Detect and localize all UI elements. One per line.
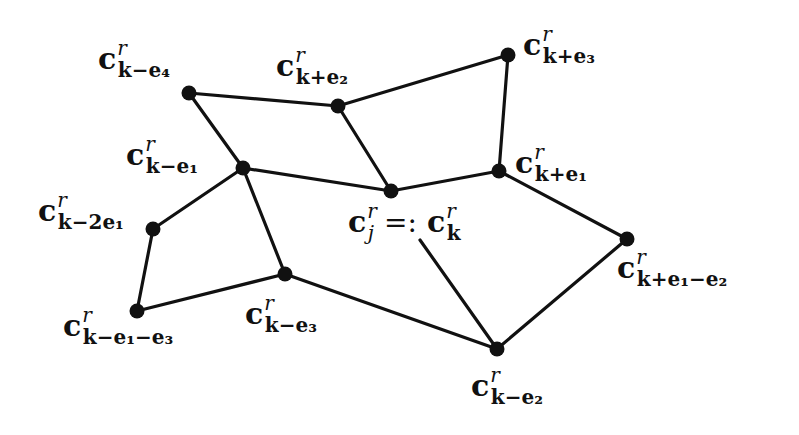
label-base: c bbox=[523, 27, 541, 62]
node-k_plus_e3 bbox=[501, 48, 516, 63]
label-base: c bbox=[276, 48, 294, 83]
edge-k_minus_2e1-k_minus_e1_minus_e3 bbox=[137, 229, 153, 311]
label-base: c bbox=[617, 250, 635, 285]
edge-k_minus_e4-k_plus_e2 bbox=[189, 93, 338, 106]
label-base: c bbox=[38, 193, 56, 228]
node-k_minus_e3 bbox=[278, 267, 293, 282]
edge-k_minus_e1-k bbox=[243, 168, 391, 191]
node-k_minus_e4 bbox=[182, 86, 197, 101]
label-subscript: k−e₄ bbox=[118, 58, 170, 82]
label-subscript: k+e₁ bbox=[535, 162, 587, 186]
label-k_minus_e3: crk−e₃ bbox=[245, 299, 317, 329]
edge-k_plus_e2-k_plus_e3 bbox=[338, 55, 508, 106]
label-base: c bbox=[126, 137, 144, 172]
node-k_minus_e2 bbox=[490, 342, 505, 357]
edge-k_plus_e2-k bbox=[338, 106, 391, 191]
label-base: c bbox=[63, 308, 81, 343]
node-k_minus_2e1 bbox=[146, 222, 161, 237]
label-subscript: k+e₁−e₂ bbox=[637, 267, 727, 291]
node-k_plus_e2 bbox=[331, 99, 346, 114]
node-k bbox=[384, 184, 399, 199]
edge-k_plus_e1_minus_e2-k_minus_e2 bbox=[497, 239, 627, 349]
label-base: c bbox=[245, 296, 263, 331]
node-k_minus_e1 bbox=[236, 161, 251, 176]
label-base: c bbox=[98, 41, 116, 76]
definition-relation: =: bbox=[384, 206, 417, 239]
edge-k_plus_e3-k_plus_e1 bbox=[499, 55, 508, 171]
center-sub: j bbox=[368, 221, 374, 245]
label-subscript: k+e₃ bbox=[543, 44, 595, 68]
label-superscript: r bbox=[636, 245, 646, 269]
label-pointer-line bbox=[420, 240, 497, 349]
node-k_plus_e1_minus_e2 bbox=[620, 232, 635, 247]
label-superscript: r bbox=[82, 303, 92, 327]
label-subscript: k−e₃ bbox=[265, 313, 317, 337]
alias-sup: r bbox=[446, 199, 456, 223]
label-superscript: r bbox=[295, 43, 305, 67]
label-subscript: k−e₁ bbox=[146, 154, 198, 178]
label-k_minus_2e1: crk−2e₁ bbox=[38, 196, 124, 226]
label-superscript: r bbox=[534, 140, 544, 164]
label-k_plus_e1: crk+e₁ bbox=[515, 148, 587, 178]
label-superscript: r bbox=[490, 363, 500, 387]
center-node-label: crj=:crk bbox=[348, 207, 461, 237]
label-subscript: k−e₂ bbox=[491, 385, 543, 409]
edges-group bbox=[137, 55, 627, 349]
label-superscript: r bbox=[145, 132, 155, 156]
label-base: c bbox=[515, 145, 533, 180]
label-k_plus_e1_minus_e2: crk+e₁−e₂ bbox=[617, 253, 727, 283]
label-superscript: r bbox=[542, 22, 552, 46]
edge-k-k_plus_e1 bbox=[391, 171, 499, 191]
label-k_minus_e4: crk−e₄ bbox=[98, 44, 170, 74]
label-base: c bbox=[471, 368, 489, 403]
center-base: c bbox=[348, 204, 366, 239]
label-k_minus_e1: crk−e₁ bbox=[126, 140, 198, 170]
label-k_minus_e2: crk−e₂ bbox=[471, 371, 543, 401]
label-superscript: r bbox=[57, 188, 67, 212]
label-k_plus_e2: crk+e₂ bbox=[276, 51, 348, 81]
node-k_plus_e1 bbox=[492, 164, 507, 179]
label-subscript: k−e₁−e₃ bbox=[83, 325, 173, 349]
alias-base: c bbox=[427, 204, 445, 239]
label-subscript: k−2e₁ bbox=[58, 210, 124, 234]
label-superscript: r bbox=[264, 291, 274, 315]
label-subscript: k+e₂ bbox=[296, 65, 348, 89]
center-sup: r bbox=[367, 199, 377, 223]
label-superscript: r bbox=[117, 36, 127, 60]
label-k_minus_e1_minus_e3: crk−e₁−e₃ bbox=[63, 311, 173, 341]
label-k_plus_e3: crk+e₃ bbox=[523, 30, 595, 60]
edge-k_minus_e1-k_minus_e3 bbox=[243, 168, 285, 274]
alias-sub: k bbox=[447, 221, 461, 245]
